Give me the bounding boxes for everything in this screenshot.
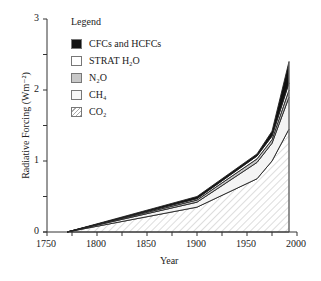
legend-title: Legend: [71, 16, 101, 27]
x-tick-label: 1850: [136, 238, 156, 249]
x-tick-label: 1750: [36, 238, 56, 249]
x-tick-label: 1800: [86, 238, 106, 249]
x-tick-label: 1950: [236, 238, 256, 249]
legend-label: N₂O: [89, 72, 107, 83]
stacked-areas: [67, 62, 289, 232]
legend-label: CO₂: [89, 106, 106, 117]
co2-swatch: [71, 107, 82, 117]
legend-item-strat-h2o: STRAT H₂O: [71, 55, 140, 66]
y-tick-label: 0: [34, 225, 39, 236]
y-tick-label: 1: [34, 154, 39, 165]
legend-item-n2o: N₂O: [71, 72, 107, 83]
legend-label: CH₄: [89, 89, 106, 100]
strat-h2o-swatch: [71, 56, 82, 66]
legend-item-ch4: CH₄: [71, 89, 106, 100]
y-axis-label: Radiative Forcing (Wm⁻²): [20, 71, 31, 181]
legend-label: CFCs and HCFCs: [89, 38, 161, 49]
y-tick-label: 3: [34, 12, 39, 23]
area-series-0: [67, 129, 289, 232]
y-tick-label: 2: [34, 83, 39, 94]
legend-item-co2: CO₂: [71, 106, 106, 117]
legend-item-cfcs: CFCs and HCFCs: [71, 38, 161, 49]
n2o-swatch: [71, 73, 82, 83]
ch4-swatch: [71, 90, 82, 100]
cfcs-swatch: [71, 39, 82, 49]
x-axis-label: Year: [160, 255, 178, 266]
x-tick-label: 1900: [186, 238, 206, 249]
legend-label: STRAT H₂O: [89, 55, 140, 66]
x-tick-label: 2000: [286, 238, 306, 249]
